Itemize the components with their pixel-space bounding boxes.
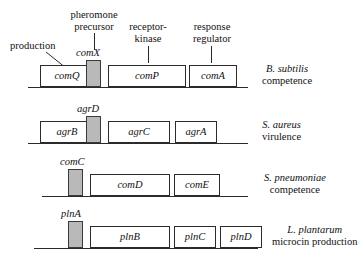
gene-label-comX: comX <box>76 48 100 59</box>
species-caption-b-subtilis: B. subtilis competence <box>262 63 312 87</box>
gene-label-plnB: plnB <box>120 232 140 243</box>
gene-box-agrA: agrA <box>175 121 217 143</box>
gene-box-plnB: plnB <box>90 226 170 248</box>
gene-label-agrD: agrD <box>77 104 99 115</box>
species-name: L. plantarum <box>272 224 357 236</box>
gene-box-plnC: plnC <box>174 226 216 248</box>
callout-receptor-kinase-line-2: kinase <box>113 33 183 45</box>
gene-box-plnD: plnD <box>220 226 262 248</box>
gene-label-plnC: plnC <box>185 232 205 243</box>
species-caption-l-plantarum: L. plantarum microcin production <box>272 224 357 248</box>
gene-label-comA: comA <box>201 71 225 82</box>
callout-pheromone-precursor-line-1: pheromone <box>52 9 136 21</box>
gene-label-agrC: agrC <box>128 127 150 138</box>
callout-response-regulator-leader <box>211 46 212 63</box>
operon-baseline <box>28 87 248 88</box>
gene-box-comC <box>68 169 83 196</box>
species-name: S. aureus <box>262 119 301 131</box>
gene-label-agrB: agrB <box>57 127 78 138</box>
callout-response-regulator-line-1: response <box>174 21 250 33</box>
operon-baseline <box>34 248 258 249</box>
gene-label-agrA: agrA <box>186 127 207 138</box>
gene-label-comC: comC <box>60 157 85 168</box>
gene-label-comQ: comQ <box>54 71 79 82</box>
species-function: virulence <box>262 131 301 143</box>
species-caption-s-aureus: S. aureus virulence <box>262 119 301 143</box>
gene-label-comE: comE <box>185 180 209 191</box>
gene-label-plnA: plnA <box>61 209 81 220</box>
species-name: B. subtilis <box>262 63 312 75</box>
callout-production: production <box>10 40 56 52</box>
operon-baseline <box>42 196 248 197</box>
species-caption-s-pneumoniae: S. pneumoniae competence <box>264 172 326 196</box>
gene-box-plnA <box>68 221 83 248</box>
gene-operon-figure: production pheromone precursor receptor-… <box>0 0 364 264</box>
gene-box-comX <box>86 60 101 87</box>
callout-receptor-kinase-line-1: receptor- <box>113 21 183 33</box>
gene-label-comP: comP <box>135 71 159 82</box>
gene-box-agrC: agrC <box>108 121 170 143</box>
gene-box-comD: comD <box>90 174 170 196</box>
gene-label-plnD: plnD <box>231 232 252 243</box>
species-function: competence <box>264 184 326 196</box>
gene-box-agrD <box>86 116 101 143</box>
gene-label-comD: comD <box>117 180 142 191</box>
species-name: S. pneumoniae <box>264 172 326 184</box>
operon-baseline <box>28 143 248 144</box>
callout-response-regulator: response regulator <box>174 21 250 44</box>
species-function: microcin production <box>272 236 357 248</box>
callout-response-regulator-line-2: regulator <box>174 33 250 45</box>
callout-receptor-kinase-leader <box>148 46 149 63</box>
callout-receptor-kinase: receptor- kinase <box>113 21 183 44</box>
gene-box-comP: comP <box>108 65 186 87</box>
callout-production-line-1: production <box>10 40 56 52</box>
gene-box-comA: comA <box>189 65 237 87</box>
gene-box-comE: comE <box>174 174 220 196</box>
species-function: competence <box>262 75 312 87</box>
